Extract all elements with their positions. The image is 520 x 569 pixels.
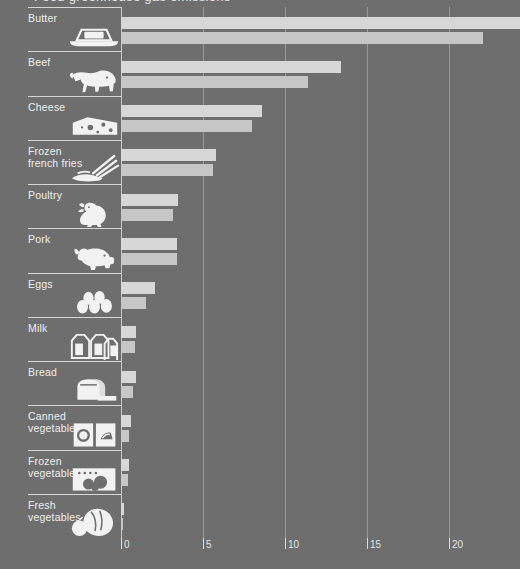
bar-frozen-vegetables-series-1: [121, 459, 129, 471]
french-fries-icon: [66, 153, 120, 183]
category-label: Beef: [28, 56, 50, 68]
tick-mark: [449, 538, 450, 549]
category-label: Eggs: [28, 278, 53, 290]
category-row-5: Poultry: [28, 184, 121, 228]
bar-fresh-vegetables-series-2: [121, 518, 123, 530]
bar-frozen-french-fries-series-2: [121, 164, 213, 176]
bar-fresh-vegetables-series-1: [121, 503, 124, 515]
category-label: Cheese: [28, 101, 65, 113]
bar-eggs-series-2: [121, 297, 146, 309]
tick-mark: [367, 538, 368, 549]
category-row-9: Bread: [28, 361, 121, 405]
bar-beef-series-2: [121, 76, 308, 88]
eggs-icon: [66, 286, 120, 316]
bar-milk-series-1: [121, 326, 136, 338]
gridline-20: [449, 7, 450, 538]
category-row-1: Butter: [28, 7, 121, 51]
tick-label: 15: [370, 539, 381, 550]
bar-frozen-vegetables-series-2: [121, 474, 128, 486]
category-row-3: Cheese: [28, 96, 121, 140]
bar-pork-series-1: [121, 238, 177, 250]
bar-poultry-series-1: [121, 194, 178, 206]
category-label: Poultry: [28, 189, 62, 201]
bar-cheese-series-1: [121, 105, 262, 117]
category-row-6: Pork: [28, 228, 121, 272]
tick-label: 10: [288, 539, 299, 550]
bar-butter-series-2: [121, 32, 483, 44]
chart-title-strip: Food greenhouse gas emissions: [0, 0, 520, 7]
category-label: Milk: [28, 322, 47, 334]
category-row-7: Eggs: [28, 273, 121, 317]
bar-butter-series-1: [121, 17, 520, 29]
tick-mark: [203, 538, 204, 549]
pig-icon: [66, 242, 120, 272]
category-row-8: Milk: [28, 317, 121, 361]
bar-frozen-french-fries-series-1: [121, 149, 216, 161]
bar-beef-series-1: [121, 61, 341, 73]
category-row-4: Frozen french fries: [28, 140, 121, 184]
cheese-icon: [66, 109, 120, 139]
category-label: Bread: [28, 366, 57, 378]
page-title: Food greenhouse gas emissions: [34, 0, 231, 4]
plot-area: [121, 7, 520, 538]
tick-label: 20: [452, 539, 463, 550]
category-row-2: Beef: [28, 51, 121, 95]
fresh-vegetables-icon: [66, 507, 120, 537]
butter-icon: [66, 20, 120, 50]
bread-icon: [66, 374, 120, 404]
tick-label: 0: [124, 539, 130, 550]
bar-eggs-series-1: [121, 282, 155, 294]
gridline-15: [367, 7, 368, 538]
chicken-icon: [66, 197, 120, 227]
milk-cartons-icon: [66, 330, 120, 360]
x-axis: 05101520: [121, 538, 520, 562]
bar-cheese-series-2: [121, 120, 252, 132]
bar-poultry-series-2: [121, 209, 173, 221]
bar-pork-series-2: [121, 253, 177, 265]
category-label: Pork: [28, 233, 50, 245]
bar-bread-series-2: [121, 386, 133, 398]
category-row-10: Canned vegetables: [28, 405, 121, 449]
canned-vegetables-icon: [66, 419, 120, 449]
tick-mark: [121, 538, 122, 549]
cow-icon: [66, 65, 120, 95]
category-row-12: Fresh vegetables: [28, 494, 121, 538]
category-label: Butter: [28, 12, 57, 24]
category-label-column: ButterBeefCheeseFrozen french friesPoult…: [0, 7, 121, 538]
bar-canned-vegetables-series-2: [121, 430, 129, 442]
category-row-11: Frozen vegetables: [28, 450, 121, 494]
bar-canned-vegetables-series-1: [121, 415, 131, 427]
bar-milk-series-2: [121, 341, 135, 353]
tick-label: 5: [206, 539, 212, 550]
bar-chart: Food greenhouse gas emissions ButterBeef…: [0, 0, 520, 569]
bar-bread-series-1: [121, 371, 136, 383]
tick-mark: [285, 538, 286, 549]
frozen-vegetables-icon: [66, 463, 120, 493]
